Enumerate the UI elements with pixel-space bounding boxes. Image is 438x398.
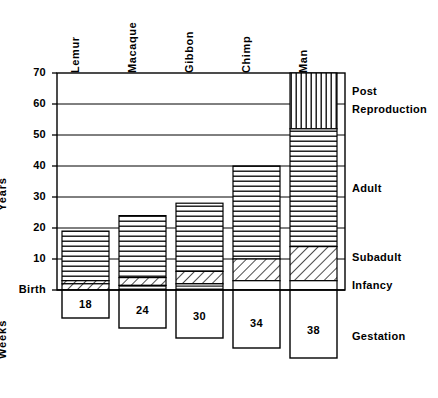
y-axis-title-years: Years <box>0 177 8 211</box>
gestation-value-macaque: 24 <box>119 305 166 316</box>
bar-lemur-adult <box>62 231 109 281</box>
y-tick-70: 70 <box>12 67 46 78</box>
species-label-macaque: Macaque <box>127 22 138 73</box>
stage-label-gestation: Gestation <box>352 331 405 342</box>
primate-life-stage-chart: 70 60 50 40 30 20 10 Birth Years Weeks L… <box>0 0 438 398</box>
bar-gibbon-subadult <box>176 271 223 283</box>
bar-man-subadult <box>290 247 337 281</box>
bar-lemur-infancy <box>62 284 109 290</box>
stage-label-post: Post <box>352 86 377 97</box>
bar-man <box>290 73 337 358</box>
gestation-value-man: 38 <box>290 325 337 336</box>
gestation-value-gibbon: 30 <box>176 311 223 322</box>
y-tick-50: 50 <box>12 129 46 140</box>
species-label-man: Man <box>298 49 309 73</box>
stage-label-subadult: Subadult <box>352 252 401 263</box>
y-tick-10: 10 <box>12 253 46 264</box>
bar-man-post-reproduction <box>290 73 337 129</box>
y-tick-20: 20 <box>12 222 46 233</box>
bar-macaque-adult <box>119 216 166 278</box>
bar-gibbon-adult <box>176 203 223 271</box>
bar-chimp-infancy <box>233 281 280 290</box>
species-label-chimp: Chimp <box>241 36 252 73</box>
stage-label-reproduction: Reproduction <box>352 104 427 115</box>
y-axis-ticks <box>52 73 57 290</box>
stage-label-infancy: Infancy <box>352 280 393 291</box>
bar-gibbon-infancy <box>176 284 223 290</box>
stage-label-adult: Adult <box>352 183 382 194</box>
bar-chimp-subadult <box>233 259 280 281</box>
y-axis-title-weeks: Weeks <box>0 320 8 359</box>
y-tick-60: 60 <box>12 98 46 109</box>
bar-man-adult <box>290 129 337 247</box>
bar-man-infancy <box>290 281 337 290</box>
bar-macaque-subadult <box>119 278 166 286</box>
bar-chimp-adult <box>233 166 280 259</box>
gestation-value-lemur: 18 <box>62 299 109 310</box>
y-tick-birth: Birth <box>6 284 46 295</box>
y-tick-30: 30 <box>12 191 46 202</box>
gestation-value-chimp: 34 <box>233 318 280 329</box>
species-label-lemur: Lemur <box>70 36 81 73</box>
species-label-gibbon: Gibbon <box>184 31 195 73</box>
y-tick-40: 40 <box>12 160 46 171</box>
